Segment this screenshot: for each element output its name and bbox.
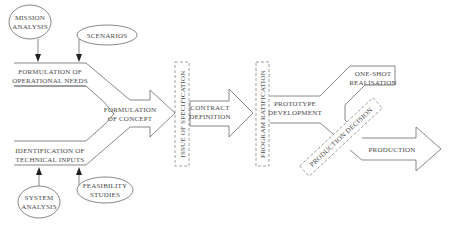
svg-text:STUDIES: STUDIES <box>90 191 120 199</box>
svg-text:PROTOTYPE: PROTOTYPE <box>274 100 316 108</box>
stage-contract-definition: CONTRACT DEFINITION <box>189 89 253 137</box>
branch-technical-inputs: IDENTIFICATION OF TECHNICAL INPUTS <box>14 125 150 165</box>
svg-text:ANALYSIS: ANALYSIS <box>12 23 48 31</box>
stage-formulation-of-concept: FORMULATION OF CONCEPT <box>104 90 175 137</box>
arrow-up-icon <box>76 167 82 175</box>
svg-text:ISSUE OF SPECIFICATION: ISSUE OF SPECIFICATION <box>179 70 187 157</box>
branch-top-line-1: FORMULATION OF <box>18 68 82 76</box>
input-scenarios: SCENARIOS <box>76 25 137 62</box>
arrow-up-icon <box>36 167 42 175</box>
input-feasibility-studies: FEASIBILITY STUDIES <box>76 167 133 203</box>
svg-text:SYSTEM: SYSTEM <box>25 194 54 202</box>
svg-text:PROGRAM RATIFICATION: PROGRAM RATIFICATION <box>259 70 267 158</box>
svg-text:OF CONCEPT: OF CONCEPT <box>108 115 153 123</box>
outcome-production: PRODUCTION <box>350 127 441 171</box>
svg-text:REALISATION: REALISATION <box>349 79 397 87</box>
branch-bottom-line-1: IDENTIFICATION OF <box>15 147 84 155</box>
svg-text:MISSION: MISSION <box>15 14 45 22</box>
input-mission-analysis: MISSION ANALYSIS <box>9 5 51 62</box>
arrow-down-icon <box>76 54 82 62</box>
svg-text:ONE-SHOT: ONE-SHOT <box>355 70 392 78</box>
svg-text:DEFINITION: DEFINITION <box>189 113 231 121</box>
svg-text:DEVELOPMENT: DEVELOPMENT <box>268 109 322 117</box>
svg-text:ANALYSIS: ANALYSIS <box>21 203 57 211</box>
svg-text:FORMULATION: FORMULATION <box>104 106 156 114</box>
branch-operational-needs: FORMULATION OF OPERATIONAL NEEDS <box>12 63 150 102</box>
branch-top-line-2: OPERATIONAL NEEDS <box>12 77 88 85</box>
branch-bottom-line-2: TECHNICAL INPUTS <box>16 156 85 164</box>
arrow-down-icon <box>35 54 41 62</box>
milestone-issue-of-specification: ISSUE OF SPECIFICATION <box>175 62 189 166</box>
svg-text:FEASIBILITY: FEASIBILITY <box>83 182 128 190</box>
diagram-canvas: FORMULATION OF OPERATIONAL NEEDS IDENTIF… <box>0 0 451 228</box>
input-system-analysis: SYSTEM ANALYSIS <box>18 167 60 218</box>
svg-text:PRODUCTION: PRODUCTION <box>368 146 415 154</box>
svg-text:SCENARIOS: SCENARIOS <box>87 32 128 40</box>
svg-text:CONTRACT: CONTRACT <box>190 104 230 112</box>
